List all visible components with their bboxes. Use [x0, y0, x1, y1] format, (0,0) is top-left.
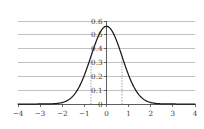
- y-tick-label-4: 0.4: [91, 44, 103, 53]
- x-tick-label-2: −2: [57, 109, 68, 118]
- x-tick-label-8: 4: [193, 109, 198, 118]
- y-axis: [104, 21, 107, 104]
- x-tick-label-1: −3: [35, 109, 46, 118]
- plot-canvas: −4−3−2−101234 00.10.20.30.40.50.6: [0, 0, 204, 129]
- y-tick-label-1: 0.1: [91, 86, 102, 95]
- y-tick-label-0: 0: [98, 100, 103, 109]
- x-tick-label-6: 2: [148, 109, 153, 118]
- x-tick-label-4: 0: [104, 109, 109, 118]
- y-tick-label-5: 0.5: [91, 30, 103, 39]
- x-tick-label-3: −1: [79, 109, 90, 118]
- y-tick-label-3: 0.3: [91, 58, 103, 67]
- y-tick-label-6: 0.6: [91, 17, 103, 26]
- y-tick-label-2: 0.2: [91, 72, 102, 81]
- y-tick-labels: 00.10.20.30.40.50.6: [91, 17, 103, 109]
- x-tick-label-0: −4: [13, 109, 24, 118]
- x-tick-label-5: 1: [126, 109, 131, 118]
- x-tick-label-7: 3: [171, 109, 176, 118]
- x-tick-labels: −4−3−2−101234: [13, 109, 198, 118]
- gaussian-distribution-figure: −4−3−2−101234 00.10.20.30.40.50.6: [0, 0, 204, 129]
